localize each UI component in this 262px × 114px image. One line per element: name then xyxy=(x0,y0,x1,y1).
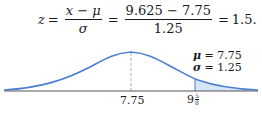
distribution-parameters: μ = 7.75 σ = 1.25 xyxy=(193,50,242,74)
fraction-five-eighths: 5 8 xyxy=(195,93,199,106)
mean-tick-label: 7.75 xyxy=(120,94,145,107)
formula-fraction: x − μ σ xyxy=(65,4,102,35)
formula-denominator: σ xyxy=(79,20,88,35)
z-score-equation: z = x − μ σ = 9.625 − 7.75 1.25 = 1.5. xyxy=(38,4,257,34)
value-denominator: 1.25 xyxy=(154,20,183,35)
equals-sign: = xyxy=(108,12,119,27)
z-result: 1.5. xyxy=(232,12,257,27)
cutoff-tick-label: 9 5 8 xyxy=(187,93,199,106)
z-variable: z xyxy=(38,12,45,27)
equals-sign: = xyxy=(218,12,229,27)
sigma-parameter: σ = 1.25 xyxy=(193,62,242,74)
formula-numerator: x − μ xyxy=(65,4,102,20)
equals-sign: = xyxy=(48,12,59,27)
value-fraction: 9.625 − 7.75 1.25 xyxy=(125,4,212,35)
value-numerator: 9.625 − 7.75 xyxy=(125,4,212,20)
